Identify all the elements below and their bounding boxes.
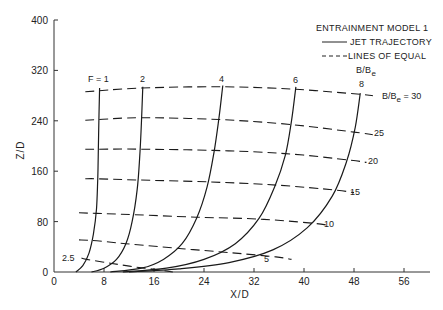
y-tick-label: 320 [31, 65, 48, 76]
y-tick-label: 80 [37, 217, 49, 228]
equal-b-line [79, 213, 329, 226]
x-axis-title: X/D [230, 289, 250, 300]
jet-trajectories [76, 86, 360, 273]
label-b10: 10 [324, 219, 334, 229]
y-tick-label: 0 [42, 267, 48, 278]
legend-title: ENTRAINMENT MODEL 1 [316, 23, 428, 33]
x-tick-label: 32 [248, 276, 260, 287]
label-f4: 4 [219, 74, 224, 84]
y-tick-label: 240 [31, 116, 48, 127]
label-b30: B/Be = 30 [382, 91, 421, 104]
y-axis-title: Z/D [15, 140, 26, 159]
x-tick-label: 40 [298, 276, 310, 287]
label-f1: F = 1 [88, 74, 109, 84]
x-tick-label: 0 [51, 276, 57, 287]
equal-b-line [85, 87, 373, 96]
legend-solid-label: JET TRAJECTORY [350, 37, 432, 47]
y-tick-label: 160 [31, 166, 48, 177]
label-b2-5: 2.5 [62, 253, 75, 263]
chart-canvas: 08162432404856080160240320400 X/D Z/D F … [0, 0, 443, 310]
x-tick-label: 24 [198, 276, 210, 287]
x-tick-label: 16 [148, 276, 160, 287]
label-b25: 25 [374, 128, 384, 138]
equal-b-lines [79, 87, 373, 272]
y-tick-label: 400 [31, 15, 48, 26]
label-f2: 2 [140, 74, 145, 84]
legend-dashed-label: LINES OF EQUAL [348, 51, 426, 61]
equal-b-line [85, 179, 354, 193]
equal-b-line [85, 118, 373, 135]
label-b15: 15 [350, 187, 360, 197]
x-tick-label: 56 [398, 276, 410, 287]
equal-b-line [85, 149, 366, 162]
x-tick-label: 48 [348, 276, 360, 287]
label-b20: 20 [368, 156, 378, 166]
label-b5: 5 [264, 254, 269, 264]
jet-trajectory-line [129, 93, 360, 272]
equal-b-line [79, 240, 292, 260]
legend-dashed-label-2: B/Be [356, 65, 376, 78]
label-f6: 6 [293, 75, 298, 85]
x-tick-label: 8 [101, 276, 107, 287]
legend: ENTRAINMENT MODEL 1 JET TRAJECTORY LINES… [316, 23, 432, 78]
jet-trajectory-line [76, 88, 100, 272]
label-f8: 8 [359, 79, 364, 89]
